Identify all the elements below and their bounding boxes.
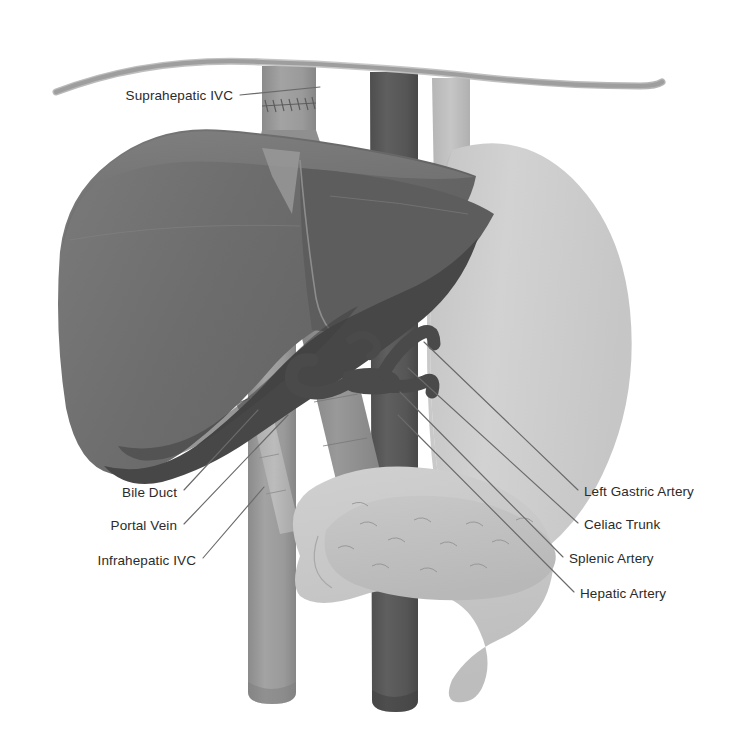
label-hepatic-artery: Hepatic Artery [580, 586, 666, 601]
label-portal-vein: Portal Vein [111, 518, 177, 533]
label-left-gastric-artery: Left Gastric Artery [584, 484, 694, 499]
label-celiac-trunk: Celiac Trunk [584, 517, 660, 532]
label-splenic-artery: Splenic Artery [569, 551, 654, 566]
anatomy-diagram-canvas: Suprahepatic IVC Bile Duct Portal Vein I… [0, 0, 736, 739]
label-bile-duct: Bile Duct [122, 485, 177, 500]
splenic-artery-vessel [388, 380, 433, 392]
label-infrahepatic-ivc: Infrahepatic IVC [98, 553, 197, 568]
anatomy-figure: Suprahepatic IVC Bile Duct Portal Vein I… [0, 0, 736, 739]
label-suprahepatic-ivc: Suprahepatic IVC [126, 88, 234, 103]
